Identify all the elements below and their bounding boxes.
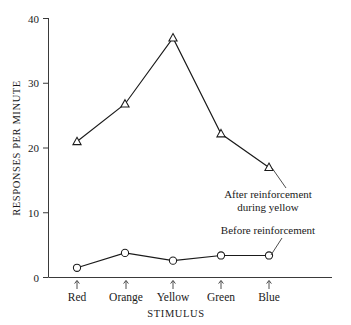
data-point-before-blue (265, 252, 272, 259)
x-tick-label-green: Green (207, 291, 235, 303)
annotation-after-reinforcement-line2: during yellow (237, 201, 298, 213)
y-tick-label-10: 10 (28, 207, 40, 219)
x-tick-arrow-orange (124, 280, 129, 289)
data-point-after-blue (265, 163, 273, 170)
series-markers-before-reinforcement (73, 249, 272, 271)
x-tick-arrow-red (75, 280, 80, 289)
data-point-before-yellow (169, 257, 176, 264)
x-tick-arrow-yellow (171, 280, 176, 289)
y-tick-label-30: 30 (28, 77, 40, 89)
y-axis-title: RESPONSES PER MINUTE (11, 80, 22, 216)
data-point-before-orange (121, 249, 128, 256)
y-tick-label-40: 40 (28, 13, 40, 25)
y-tick-label-0: 0 (34, 272, 40, 284)
x-axis-title: STIMULUS (147, 308, 204, 319)
x-tick-arrow-blue (267, 280, 272, 289)
data-point-after-yellow (169, 34, 177, 41)
x-tick-label-blue: Blue (258, 291, 280, 303)
series-line-after-reinforcement (77, 38, 269, 168)
responses-per-minute-line-chart: 40 30 20 10 0 RESPONSES PER MINUTE Red (0, 0, 351, 325)
annotation-after-reinforcement-line1: After reinforcement (224, 188, 312, 200)
data-point-before-red (73, 264, 80, 271)
chart-figure: 40 30 20 10 0 RESPONSES PER MINUTE Red (0, 0, 351, 325)
series-markers-after-reinforcement (73, 34, 273, 171)
x-tick-label-orange: Orange (109, 291, 143, 304)
x-tick-label-yellow: Yellow (157, 291, 190, 303)
data-point-after-green (217, 129, 225, 136)
data-point-after-red (73, 137, 81, 144)
leader-line-before-reinforcement (271, 238, 282, 255)
y-tick-label-20: 20 (28, 142, 40, 154)
leader-line-after-reinforcement (272, 168, 286, 188)
annotation-before-reinforcement-line1: Before reinforcement (221, 224, 315, 236)
data-point-before-green (217, 252, 224, 259)
x-tick-label-red: Red (68, 291, 87, 303)
x-tick-arrow-green (219, 280, 224, 289)
